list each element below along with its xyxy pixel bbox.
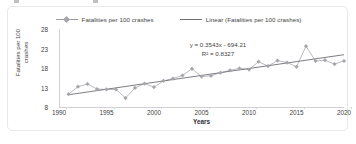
x-tick-label: 2005 <box>194 109 208 116</box>
plot-wrapper: Fatalities per 100 crashes 8 13 18 23 28… <box>8 7 349 132</box>
data-point-marker <box>285 60 289 64</box>
x-tick-label: 1995 <box>99 109 113 116</box>
x-tick-label: 2015 <box>289 109 303 116</box>
r-squared-value: R² = 0.8327 <box>158 49 278 58</box>
x-tick-label: 2010 <box>242 109 256 116</box>
artifact-mark <box>93 0 98 3</box>
data-point-marker <box>275 58 279 62</box>
artifact-mark <box>14 0 19 3</box>
y-tick-label: 23 <box>41 45 48 52</box>
regression-equation: y = 0.3543x - 694.21 <box>158 40 278 49</box>
y-tick-label: 18 <box>41 65 48 72</box>
x-tick-mark <box>114 107 115 109</box>
data-point-marker <box>218 71 222 75</box>
y-axis-tick-labels: 8 13 18 23 28 <box>32 29 48 107</box>
data-point-marker <box>323 58 327 62</box>
y-tick-label: 8 <box>44 104 48 111</box>
x-tick-mark <box>351 107 352 109</box>
chart-container: Fatalities per 100 crashes Linear (Fatal… <box>7 6 348 131</box>
x-tick-mark <box>256 107 257 109</box>
trend-line <box>69 55 345 95</box>
x-tick-mark <box>66 107 67 109</box>
data-point-marker <box>332 62 336 66</box>
data-point-marker <box>142 82 146 86</box>
x-axis-title: Years <box>59 118 344 125</box>
data-point-marker <box>85 82 89 86</box>
y-axis-title: Fatalities per 100 crashes <box>14 22 29 84</box>
data-point-marker <box>342 59 346 63</box>
data-point-marker <box>266 64 270 68</box>
x-tick-mark <box>304 107 305 109</box>
x-tick-mark <box>209 107 210 109</box>
data-point-marker <box>294 65 298 69</box>
y-tick-label: 13 <box>41 84 48 91</box>
y-tick-label: 28 <box>41 26 48 33</box>
x-axis-line <box>59 107 344 108</box>
x-tick-label: 2000 <box>147 109 161 116</box>
x-tick-label: 1990 <box>52 109 66 116</box>
data-point-marker <box>104 87 108 91</box>
x-tick-label: 2020 <box>337 109 351 116</box>
x-tick-mark <box>161 107 162 109</box>
trendline-annotation: y = 0.3543x - 694.21 R² = 0.8327 <box>158 40 278 58</box>
screenshot-root: Fatalities per 100 crashes Linear (Fatal… <box>0 0 356 144</box>
